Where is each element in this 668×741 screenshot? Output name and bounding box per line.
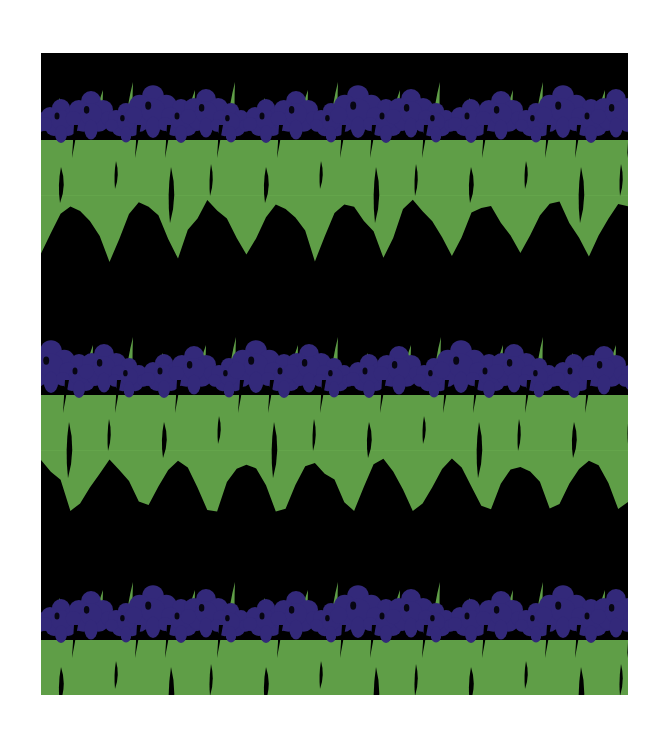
bottom-band <box>41 582 628 695</box>
leaf-mass <box>41 140 628 262</box>
iris-pattern-image: Iris flower textile pattern <box>41 53 628 695</box>
leaf-mass <box>41 640 628 695</box>
middle-band <box>41 337 628 512</box>
leaf-mass <box>41 395 628 512</box>
pattern-canvas <box>41 53 628 695</box>
top-band <box>41 82 628 262</box>
